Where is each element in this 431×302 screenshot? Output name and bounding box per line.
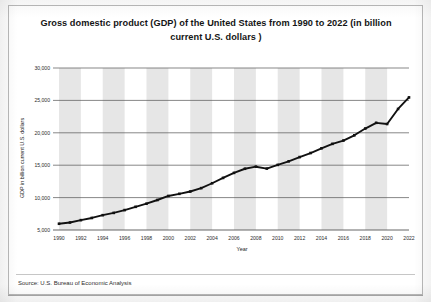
x-axis-title: Year	[237, 246, 248, 252]
chart-title: Gross domestic product (GDP) of the Unit…	[30, 16, 402, 44]
svg-text:1990: 1990	[53, 235, 64, 241]
svg-text:2010: 2010	[272, 235, 283, 241]
alternating-background-bands	[59, 68, 387, 230]
svg-text:25,000: 25,000	[34, 97, 50, 103]
svg-text:1996: 1996	[119, 235, 130, 241]
svg-text:2004: 2004	[206, 235, 217, 241]
svg-text:15,000: 15,000	[34, 162, 50, 168]
page-bottom-divider	[8, 295, 423, 296]
svg-text:2014: 2014	[316, 235, 327, 241]
svg-text:2008: 2008	[250, 235, 261, 241]
y-axis-title: GDP in billion current U.S. dollars	[19, 118, 25, 198]
svg-text:2012: 2012	[294, 235, 305, 241]
svg-text:2018: 2018	[360, 235, 371, 241]
svg-text:30,000: 30,000	[34, 65, 50, 71]
svg-text:1998: 1998	[141, 235, 152, 241]
svg-text:2006: 2006	[228, 235, 239, 241]
svg-text:1994: 1994	[97, 235, 108, 241]
svg-text:5,000: 5,000	[37, 227, 50, 233]
x-axis-tick-labels: 1990199219941996199820002002200420062008…	[53, 235, 414, 241]
svg-text:2000: 2000	[163, 235, 174, 241]
svg-text:20,000: 20,000	[34, 130, 50, 136]
y-axis-tick-labels: 5,00010,00015,00020,00025,00030,000	[34, 65, 50, 233]
svg-text:2020: 2020	[381, 235, 392, 241]
plot-area: 5,00010,00015,00020,00025,00030,000 1990…	[17, 58, 415, 254]
source-divider	[16, 274, 415, 275]
svg-text:10,000: 10,000	[34, 195, 50, 201]
line-chart-svg: 5,00010,00015,00020,00025,00030,000 1990…	[17, 58, 415, 254]
svg-text:1992: 1992	[75, 235, 86, 241]
chart-screenshot: Gross domestic product (GDP) of the Unit…	[0, 0, 431, 302]
svg-text:2002: 2002	[185, 235, 196, 241]
svg-text:2022: 2022	[403, 235, 414, 241]
svg-text:2016: 2016	[338, 235, 349, 241]
source-note: Source: U.S. Bureau of Economic Analysis	[18, 280, 131, 286]
